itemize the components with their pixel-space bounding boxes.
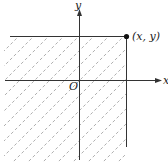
y-axis-label: y [74, 0, 82, 12]
point-marker [124, 34, 129, 39]
point-label: (x, y) [132, 30, 160, 43]
hatched-region [0, 0, 168, 167]
x-axis-arrow-icon [155, 78, 162, 83]
x-axis [5, 78, 162, 83]
origin-label: O [69, 80, 78, 93]
coordinate-diagram: x y O (x, y) [0, 0, 168, 167]
x-axis-label: x [163, 74, 168, 87]
